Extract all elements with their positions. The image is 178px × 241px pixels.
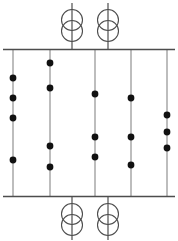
node-f3-b <box>92 134 99 141</box>
busbar-diagram <box>0 0 178 241</box>
transformer-top-right <box>98 3 119 50</box>
transformer-bottom-left <box>62 197 83 241</box>
node-f4-a <box>128 95 135 102</box>
node-f2-d <box>47 164 54 171</box>
connection-nodes-group <box>10 60 171 171</box>
node-f1-b <box>10 95 17 102</box>
node-f2-c <box>47 143 54 150</box>
node-f1-d <box>10 157 17 164</box>
node-f5-b <box>164 129 171 136</box>
feeder-lines-group <box>13 50 167 197</box>
node-f1-c <box>10 115 17 122</box>
node-f2-b <box>47 85 54 92</box>
node-f4-c <box>128 162 135 169</box>
transformer-top-left <box>62 3 83 50</box>
schematic-canvas <box>0 0 178 241</box>
node-f3-a <box>92 91 99 98</box>
transformers-group <box>62 3 119 240</box>
node-f5-a <box>164 112 171 119</box>
node-f1-a <box>10 75 17 82</box>
transformer-bottom-right <box>98 197 119 241</box>
busbar-lines-group <box>3 50 175 197</box>
node-f4-b <box>128 134 135 141</box>
node-f3-c <box>92 154 99 161</box>
node-f5-c <box>164 145 171 152</box>
node-f2-a <box>47 60 54 67</box>
